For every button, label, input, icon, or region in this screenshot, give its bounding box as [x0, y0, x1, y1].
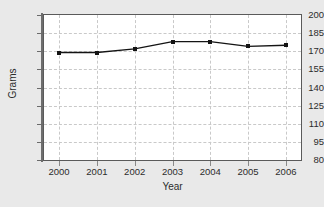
series-line: [44, 15, 301, 160]
x-axis-title: Year: [43, 181, 302, 192]
y-axis-title: Grams: [7, 54, 18, 114]
data-point: [133, 47, 137, 51]
plot-area: [43, 14, 302, 161]
data-point: [95, 51, 99, 55]
data-point: [171, 40, 175, 44]
x-tick-label: 2006: [264, 166, 308, 177]
data-point: [57, 51, 61, 55]
data-point: [284, 43, 288, 47]
data-point: [208, 40, 212, 44]
data-point: [246, 44, 250, 48]
chart-screenshot: Grams 8095110125140155170185200 20002001…: [0, 0, 324, 207]
plot-inner: [44, 15, 301, 160]
